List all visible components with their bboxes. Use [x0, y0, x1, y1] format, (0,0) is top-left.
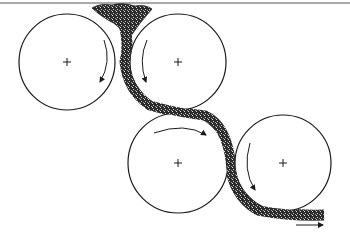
calender-diagram [0, 0, 350, 238]
diagram-canvas [0, 0, 350, 238]
roll-4 [235, 115, 331, 211]
roll-3 [128, 113, 228, 213]
roll-1 [19, 14, 115, 110]
